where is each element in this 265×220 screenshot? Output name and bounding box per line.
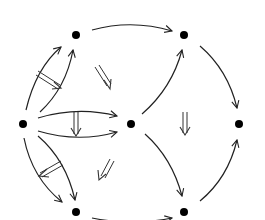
node-center — [127, 120, 135, 128]
edge-tl-tr — [92, 25, 172, 31]
edge-l-tl-outer — [26, 47, 61, 110]
two-cell-arrow-c-bl — [98, 159, 114, 180]
edge-br-r — [200, 140, 237, 201]
edge-tr-r — [200, 46, 237, 108]
edge-l-bl-inner — [38, 136, 75, 200]
node-bottom-right — [180, 208, 188, 216]
edge-l-bl-outer — [24, 138, 62, 202]
two-cell-arrow-right — [180, 112, 190, 135]
two-cell-arrow-l-c — [71, 112, 81, 136]
node-bottom-left — [72, 208, 80, 216]
diagram-canvas — [0, 0, 265, 220]
edge-c-br — [145, 134, 182, 196]
diagram-svg — [0, 0, 265, 220]
node-top-left — [72, 31, 80, 39]
edge-bl-br — [92, 218, 172, 220]
two-cell-arrow-tl-c — [95, 65, 111, 89]
node-left — [19, 120, 27, 128]
two-cell-arrow-l-bl — [39, 161, 63, 177]
node-top-right — [180, 31, 188, 39]
node-right — [235, 120, 243, 128]
edge-c-tr — [142, 50, 182, 114]
